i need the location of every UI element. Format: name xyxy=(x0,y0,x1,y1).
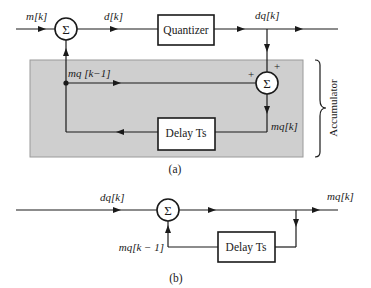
delta-modulation-diagram: m[k] Σ d[k] Quantizer dq[k] Σ + + mq [k−… xyxy=(0,0,371,288)
plus-sign-left: + xyxy=(248,68,254,80)
caption-a: (a) xyxy=(169,163,182,176)
diagram-b: dq[k] Σ mq[k] Delay Ts mq[k − 1] (b) xyxy=(16,190,354,285)
error-label: d[k] xyxy=(104,10,123,22)
arrow-icon xyxy=(237,26,245,32)
accumulator-brace xyxy=(315,60,326,157)
accumulator-label: Accumulator xyxy=(327,79,339,137)
input-label-b: dq[k] xyxy=(100,191,124,203)
arrow-icon xyxy=(110,26,118,32)
arrow-icon xyxy=(63,48,69,56)
arrow-icon xyxy=(312,207,320,213)
output-label: mq[k] xyxy=(271,120,298,132)
feedback-label-b: mq[k − 1] xyxy=(119,241,164,253)
quantized-label: dq[k] xyxy=(255,9,279,21)
quantizer-label: Quantizer xyxy=(163,24,209,36)
arrow-icon xyxy=(295,26,303,32)
diagram-a: m[k] Σ d[k] Quantizer dq[k] Σ + + mq [k−… xyxy=(16,9,339,176)
sigma-icon: Σ xyxy=(62,22,70,37)
sigma-icon: Σ xyxy=(164,203,172,218)
arrow-icon xyxy=(113,207,121,213)
arrow-icon xyxy=(38,26,46,32)
feedback-label: mq [k−1] xyxy=(68,67,111,79)
arrow-icon xyxy=(264,44,270,52)
arrow-icon xyxy=(293,219,299,227)
delay-label-b: Delay Ts xyxy=(226,241,267,254)
caption-b: (b) xyxy=(169,272,183,285)
output-label-b: mq[k] xyxy=(327,190,354,202)
delay-label: Delay Ts xyxy=(166,127,207,140)
plus-sign-top: + xyxy=(274,60,280,72)
sigma-icon: Σ xyxy=(263,76,271,91)
input-label: m[k] xyxy=(26,10,47,22)
arrow-icon xyxy=(165,225,171,233)
arrow-icon xyxy=(208,207,216,213)
